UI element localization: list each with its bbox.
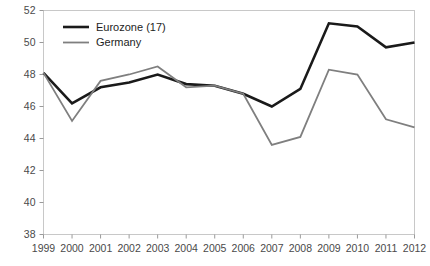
x-tick-label: 2004 bbox=[175, 242, 199, 254]
y-axis-ticks bbox=[40, 11, 44, 235]
x-tick-label: 2011 bbox=[375, 242, 398, 254]
y-tick-label: 42 bbox=[24, 164, 36, 176]
x-tick-label: 1999 bbox=[32, 242, 56, 254]
y-tick-label: 50 bbox=[24, 36, 36, 48]
y-axis-labels: 3840424446485052 bbox=[24, 4, 36, 240]
x-tick-label: 2006 bbox=[232, 242, 256, 254]
legend-label: Germany bbox=[96, 36, 142, 48]
y-tick-label: 44 bbox=[24, 132, 36, 144]
x-tick-label: 2012 bbox=[403, 242, 427, 254]
chart-container: 3840424446485052 19992000200120022003200… bbox=[0, 0, 430, 266]
y-tick-label: 46 bbox=[24, 100, 36, 112]
legend-label: Eurozone (17) bbox=[96, 21, 166, 33]
y-tick-label: 40 bbox=[24, 196, 36, 208]
x-tick-label: 2008 bbox=[289, 242, 313, 254]
y-tick-label: 48 bbox=[24, 68, 36, 80]
x-axis-labels: 1999200020012002200320042005200620072008… bbox=[32, 242, 427, 254]
line-chart: 3840424446485052 19992000200120022003200… bbox=[0, 0, 430, 266]
y-tick-label: 52 bbox=[24, 4, 36, 16]
x-tick-label: 2000 bbox=[60, 242, 84, 254]
x-tick-label: 2007 bbox=[260, 242, 284, 254]
x-axis-ticks bbox=[44, 235, 415, 239]
series-line-germany bbox=[44, 67, 415, 145]
x-tick-label: 2009 bbox=[317, 242, 341, 254]
x-tick-label: 2002 bbox=[117, 242, 141, 254]
x-tick-label: 2010 bbox=[346, 242, 370, 254]
x-tick-label: 2003 bbox=[146, 242, 170, 254]
chart-legend: Eurozone (17)Germany bbox=[63, 21, 166, 49]
y-tick-label: 38 bbox=[24, 228, 36, 240]
x-tick-label: 2001 bbox=[89, 242, 113, 254]
x-tick-label: 2005 bbox=[203, 242, 227, 254]
